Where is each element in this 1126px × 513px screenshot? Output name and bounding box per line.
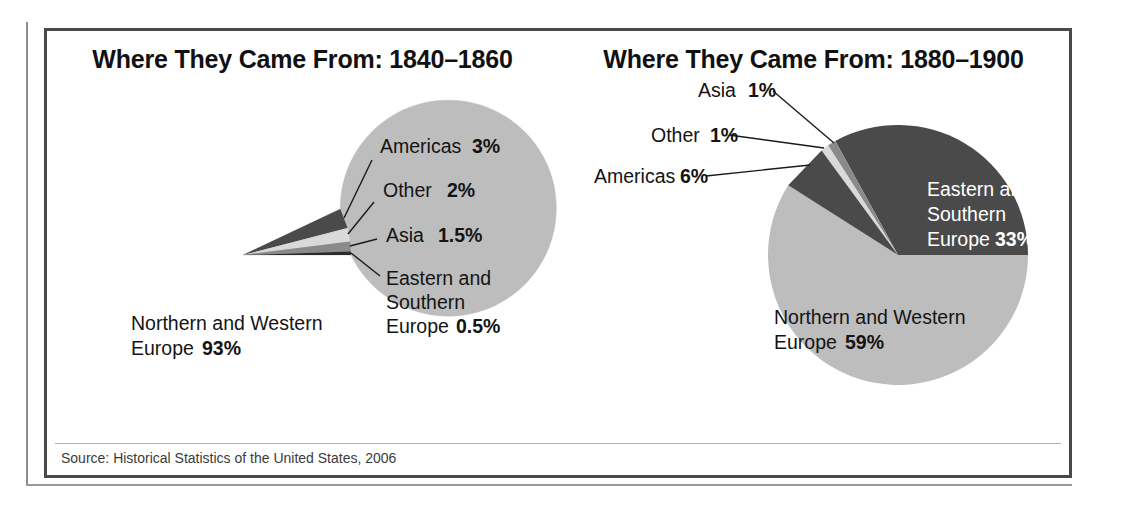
chart-panels: Where They Came From: 1840–1860 [47, 31, 1069, 475]
source-note: Source: Historical Statistics of the Uni… [61, 450, 396, 466]
label-americas-name: Americas [594, 165, 676, 187]
label-eastern-southern-europe-line2: Southern [927, 203, 1006, 225]
outer-rule-left [26, 22, 28, 486]
label-eastern-southern-europe-line1: Eastern and [386, 267, 491, 289]
label-other-value: 2% [447, 179, 475, 201]
label-eastern-southern-europe-line1: Eastern and [927, 178, 1032, 200]
label-other-name: Other [383, 179, 432, 201]
source-divider [55, 443, 1061, 444]
chart-panel-1840-1860: Where They Came From: 1840–1860 [47, 31, 558, 441]
label-northern-western-europe-line2: Europe [131, 337, 194, 359]
pie-chart-right: Asia 1% Other 1% Americas 6% Eastern and… [558, 31, 1069, 441]
figure-frame: Where They Came From: 1840–1860 [44, 28, 1072, 478]
label-other-name: Other [651, 124, 700, 146]
label-eastern-southern-europe-line2: Southern [386, 291, 465, 313]
pie-chart-left: Americas 3% Other 2% Asia 1.5% Eastern a… [47, 31, 558, 441]
label-asia-name: Asia [386, 224, 424, 246]
chart-panel-1880-1900: Where They Came From: 1880–1900 [558, 31, 1069, 441]
leader-line-other [729, 135, 824, 148]
label-eastern-southern-europe-value: 33% [995, 228, 1034, 250]
label-eastern-southern-europe-line3: Europe [927, 228, 990, 250]
label-northern-western-europe-line1: Northern and Western [774, 306, 966, 328]
label-northern-western-europe-value: 59% [845, 331, 884, 353]
leader-line-asia [773, 91, 834, 143]
label-northern-western-europe-line2: Europe [774, 331, 837, 353]
label-other-value: 1% [710, 124, 738, 146]
leader-line-americas [706, 165, 810, 176]
label-americas-value: 3% [472, 135, 500, 157]
label-eastern-southern-europe-value: 0.5% [456, 315, 500, 337]
label-asia-name: Asia [698, 79, 736, 101]
outer-rule-bottom [26, 484, 1072, 486]
label-northern-western-europe-line1: Northern and Western [131, 312, 323, 334]
label-asia-value: 1.5% [438, 224, 482, 246]
label-asia-value: 1% [748, 79, 776, 101]
label-americas-name: Americas [380, 135, 462, 157]
figure-page: Where They Came From: 1840–1860 [0, 0, 1126, 513]
label-americas-value: 6% [680, 165, 708, 187]
label-northern-western-europe-value: 93% [202, 337, 241, 359]
label-eastern-southern-europe-line3: Europe [386, 315, 449, 337]
